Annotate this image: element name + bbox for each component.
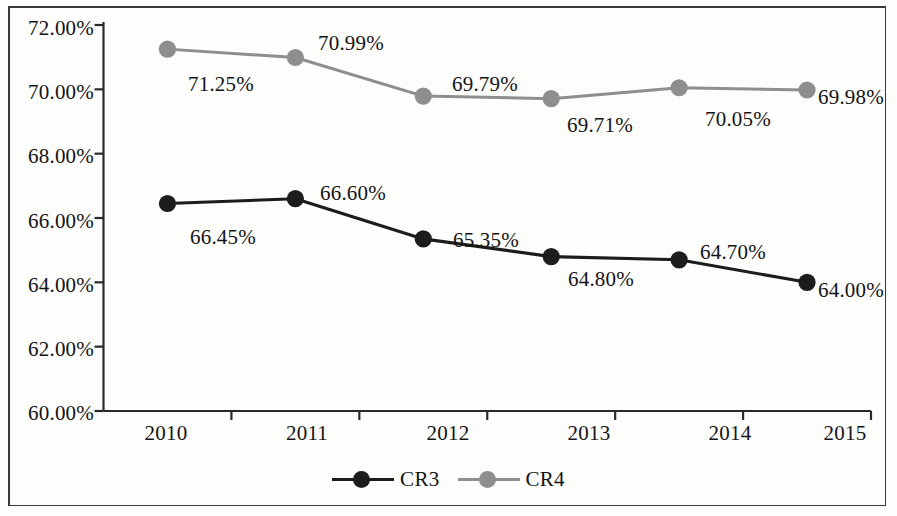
data-label-cr4-70-05: 70.05% [705,107,771,132]
chart-legend: CR3CR4 [0,462,897,496]
y-axis-tick-6: 60.00% [18,401,94,426]
x-axis-tick-2012: 2012 [413,421,483,446]
data-label-cr4-71-25: 71.25% [188,72,254,97]
data-label-cr4-70-99: 70.99% [318,31,384,56]
y-axis-tick-3: 66.00% [18,209,94,234]
data-label-cr3-66-45: 66.45% [190,225,256,250]
legend-item-cr4[interactable]: CR4 [458,467,565,492]
data-label-cr3-64-00: 64.00% [818,278,884,303]
x-axis-tick-2014: 2014 [695,421,765,446]
y-axis-tick-5: 62.00% [18,337,94,362]
x-axis-tick-2010: 2010 [131,421,201,446]
legend-item-cr3[interactable]: CR3 [332,467,439,492]
data-label-cr4-69-98: 69.98% [818,85,884,110]
y-axis-tick-1: 70.00% [18,80,94,105]
legend-dot [479,471,496,488]
y-axis-tick-0: 72.00% [18,16,94,41]
data-label-cr4-69-79: 69.79% [452,72,518,97]
legend-marker-icon-cr4 [458,470,520,488]
x-axis-tick-2015: 2015 [810,421,880,446]
legend-marker-icon-cr3 [332,470,394,488]
y-axis-tick-2: 68.00% [18,144,94,169]
data-label-cr3-66-60: 66.60% [320,181,386,206]
data-label-cr4-69-71: 69.71% [567,113,633,138]
data-label-cr3-65-35: 65.35% [453,228,519,253]
data-label-cr3-64-80: 64.80% [568,267,634,292]
x-axis-tick-2013: 2013 [554,421,624,446]
chart-figure: 72.00%70.00%68.00%66.00%64.00%62.00%60.0… [0,0,897,516]
legend-label: CR4 [526,467,565,492]
x-axis-tick-2011: 2011 [272,421,342,446]
data-label-cr3-64-70: 64.70% [700,240,766,265]
y-axis-tick-4: 64.00% [18,273,94,298]
legend-label: CR3 [400,467,439,492]
legend-dot [353,471,370,488]
